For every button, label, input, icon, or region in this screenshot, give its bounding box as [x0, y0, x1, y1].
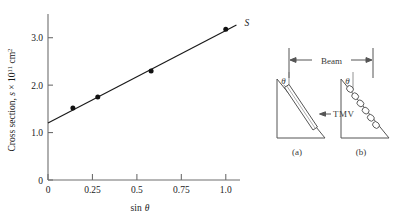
x-tick-label-4: 1.0 — [220, 185, 232, 195]
y-tick-label-0: 0 — [38, 176, 43, 186]
panel-a-theta-label: θ — [281, 76, 286, 86]
panel-a-caption: (a) — [292, 147, 302, 157]
data-point — [70, 105, 75, 110]
x-axis-ticks — [48, 174, 226, 180]
y-axis-title-unit: cm — [7, 51, 17, 66]
panel-a: θ TMV (a) — [277, 72, 355, 157]
particle-chain — [345, 84, 380, 129]
series-label-s: S — [244, 18, 249, 28]
particle — [371, 120, 380, 129]
y-axis-title-prefix: Cross section, — [7, 96, 17, 152]
panel-b-caption: (b) — [356, 147, 367, 157]
svg-text:Cross section, s × 1011 cm2: Cross section, s × 1011 cm2 — [6, 48, 18, 152]
y-axis-ticks — [48, 38, 53, 180]
data-point — [95, 95, 100, 100]
y-axis-title-unit-exponent: 2 — [6, 48, 13, 52]
y-tick-label-1: 1.0 — [31, 128, 43, 138]
beam-scattering-diagram: Beam θ TMV (a) — [263, 42, 393, 202]
x-tick-label-1: 0.25 — [84, 185, 101, 195]
fit-line — [48, 25, 236, 123]
y-tick-label-2: 2.0 — [31, 81, 43, 91]
x-tick-label-3: 0.75 — [173, 185, 190, 195]
tmv-rod — [285, 85, 318, 131]
data-point — [149, 68, 154, 73]
tmv-pointer — [320, 112, 332, 116]
data-points — [70, 27, 228, 111]
panel-b-theta-label: θ — [345, 76, 350, 86]
y-axis-title-times: × 10 — [7, 72, 17, 92]
x-tick-label-0: 0 — [46, 185, 51, 195]
figure-container: 0 1.0 2.0 3.0 0 0.25 0.5 0.75 1.0 sinθ C… — [0, 0, 397, 222]
y-tick-label-3: 3.0 — [31, 33, 43, 43]
beam-label: Beam — [321, 56, 342, 66]
tmv-label: TMV — [333, 109, 355, 119]
x-tick-label-2: 0.5 — [131, 185, 143, 195]
data-point — [223, 27, 228, 32]
scatter-plot: 0 1.0 2.0 3.0 0 0.25 0.5 0.75 1.0 sinθ C… — [0, 0, 270, 222]
x-axis-title: sinθ — [131, 203, 150, 213]
particle — [366, 113, 375, 122]
y-axis-title: Cross section, s × 1011 cm2 — [6, 48, 18, 152]
